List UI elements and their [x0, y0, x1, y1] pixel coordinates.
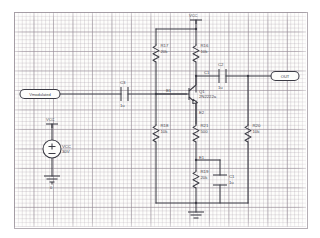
- resistor-r21-value: 500: [201, 129, 209, 134]
- capacitor-c1[interactable]: C1 1u: [213, 174, 235, 185]
- ground-symbol-main: [188, 212, 204, 218]
- resistor-r19-ref: R19: [201, 169, 209, 174]
- resistor-r18-value: 10k: [161, 129, 169, 134]
- capacitor-c3-ref: C3: [120, 80, 126, 85]
- net-label-e1: E1: [199, 155, 205, 160]
- ground-symbol-source: 0: [44, 176, 60, 190]
- resistor-r16-ref: R16: [201, 43, 209, 48]
- vcc-source-rail-label: VCC: [46, 117, 55, 122]
- vcc-rail-label: VCC: [189, 13, 198, 18]
- input-port-label: Vmodulated: [29, 92, 51, 97]
- capacitor-c1-value: 1u: [229, 180, 234, 185]
- capacitor-c3-value: 1u: [120, 103, 125, 108]
- net-label-e2: E2: [199, 110, 205, 115]
- circuit-schematic: VCC R17 20k R16 10k R18 10k R21 500: [0, 0, 320, 238]
- capacitor-c3[interactable]: C3 1u: [120, 80, 128, 108]
- resistor-r17-ref: R17: [161, 43, 169, 48]
- resistor-r20-ref: R20: [253, 123, 261, 128]
- resistor-r16[interactable]: R16 10k: [193, 43, 209, 62]
- resistor-r20-value: 10k: [253, 129, 261, 134]
- capacitor-c2-value: 1u: [218, 85, 223, 90]
- net-label-b1: B1: [166, 88, 172, 93]
- input-port[interactable]: Vmodulated: [20, 90, 60, 99]
- voltage-source-vcc[interactable]: VCC 30V: [43, 140, 71, 158]
- ground-label-source: 0: [50, 185, 53, 190]
- resistor-r19-value: 20k: [201, 175, 209, 180]
- capacitor-c2[interactable]: C2 1u: [218, 62, 226, 90]
- vcc-rail-symbol: VCC: [189, 13, 202, 24]
- resistor-r18[interactable]: R18 10k: [153, 123, 169, 142]
- resistor-r17[interactable]: R17 20k: [153, 43, 169, 62]
- resistor-r18-ref: R18: [161, 123, 169, 128]
- resistor-r19[interactable]: R19 20k: [193, 169, 209, 188]
- resistor-r16-value: 10k: [201, 49, 209, 54]
- resistor-r21-ref: R21: [201, 123, 209, 128]
- voltage-source-value: 30V: [62, 149, 70, 154]
- resistor-r17-value: 20k: [161, 49, 169, 54]
- transistor-q1[interactable]: Q1 2N2222a: [186, 76, 217, 124]
- resistor-r21[interactable]: R21 500: [193, 123, 209, 142]
- output-port[interactable]: OUT: [271, 72, 299, 81]
- resistor-r20[interactable]: R20 10k: [245, 123, 261, 142]
- transistor-q1-part: 2N2222a: [199, 94, 217, 99]
- schematic-canvas: VCC R17 20k R16 10k R18 10k R21 500: [0, 0, 320, 238]
- vcc-source-rail-symbol: VCC: [46, 117, 58, 128]
- net-label-c1: C1: [204, 70, 210, 75]
- voltage-source-ref: VCC: [62, 144, 71, 149]
- transistor-q1-ref: Q1: [199, 89, 205, 94]
- net-labels: B1 C1 E1 E2: [166, 70, 210, 160]
- output-port-label: OUT: [281, 74, 290, 79]
- capacitor-c2-ref: C2: [218, 62, 224, 67]
- capacitor-c1-ref: C1: [229, 174, 235, 179]
